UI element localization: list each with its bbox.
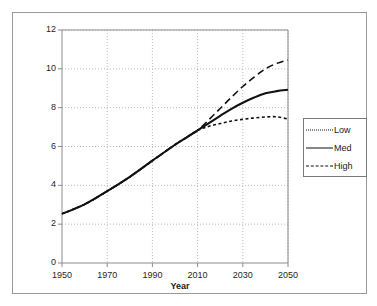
legend-label-med: Med [334,143,352,153]
horizontal-gridlines [62,30,288,224]
chart-legend: Low Med High [303,118,367,177]
y-tick-label: 12 [30,25,56,34]
x-tick-label: 1970 [87,271,127,280]
series-line-med [62,90,288,214]
x-tick-label: 2010 [178,271,218,280]
x-tick-label: 1950 [42,271,82,280]
data-series-group [62,60,288,214]
legend-entry-low: Low [304,121,366,139]
y-tick-label: 8 [30,103,56,112]
legend-line-swatch-high-icon [304,160,334,172]
legend-entry-med: Med [304,139,366,157]
y-tick-label: 6 [30,142,56,151]
x-axis-title: Year [120,281,240,291]
chart-figure: 024681012 195019701990201020302050 Year … [0,0,377,306]
y-tick-label: 0 [30,258,56,267]
legend-line-swatch-med-icon [304,142,334,154]
legend-label-high: High [334,161,353,171]
y-tick-label: 4 [30,180,56,189]
x-tick-label: 1990 [132,271,172,280]
y-tick-label: 10 [30,64,56,73]
x-tick-label: 2030 [223,271,263,280]
legend-label-low: Low [334,125,351,135]
legend-line-swatch-low-icon [304,124,334,136]
tick-marks [58,30,288,267]
series-line-low [62,117,288,214]
y-tick-label: 2 [30,219,56,228]
legend-entry-high: High [304,157,366,175]
x-tick-label: 2050 [268,271,308,280]
series-line-high [62,60,288,214]
